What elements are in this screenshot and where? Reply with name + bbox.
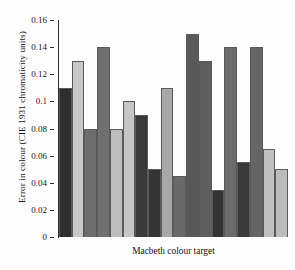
y-axis-tick-label: 0.08 <box>31 123 47 135</box>
bar <box>97 47 110 237</box>
y-axis-tick-mark <box>50 20 54 21</box>
bar <box>59 88 72 237</box>
bar <box>186 34 199 237</box>
bar <box>275 169 288 237</box>
y-axis-tick-label: 0 <box>43 231 48 243</box>
y-axis-tick-label: 0.1 <box>36 95 47 107</box>
y-axis-tick-label: 0.06 <box>31 150 47 162</box>
bar <box>84 129 97 238</box>
bar-chart-figure: Error in colour (CIE 1931 chromaticity u… <box>0 0 295 270</box>
y-axis-tick-label: 0.12 <box>31 68 47 80</box>
bar <box>250 47 263 237</box>
bar <box>212 190 225 237</box>
bar <box>161 88 174 237</box>
bar <box>72 61 85 237</box>
y-axis-tick-labels: 00.020.040.060.080.10.120.140.16 <box>20 0 54 270</box>
y-axis-tick-label: 0.14 <box>31 41 47 53</box>
y-axis-tick-mark <box>50 74 54 75</box>
y-axis-tick-mark <box>50 183 54 184</box>
y-axis-tick-mark <box>50 129 54 130</box>
y-axis-tick-mark <box>50 156 54 157</box>
x-axis-label: Macbeth colour target <box>59 246 288 256</box>
y-axis-tick-mark <box>50 47 54 48</box>
bar <box>237 162 250 237</box>
bar <box>110 129 123 238</box>
y-axis-tick-mark <box>50 210 54 211</box>
bar <box>173 176 186 237</box>
bar <box>263 149 276 237</box>
y-axis-tick-label: 0.04 <box>31 177 47 189</box>
y-axis-tick-label: 0.16 <box>31 14 47 26</box>
bar-series <box>59 20 288 237</box>
y-axis-tick-mark <box>50 101 54 102</box>
plot-area <box>59 20 288 237</box>
bar <box>123 101 136 237</box>
bar <box>224 47 237 237</box>
bar <box>135 115 148 237</box>
y-axis-tick-label: 0.02 <box>31 204 47 216</box>
bar <box>199 61 212 237</box>
y-axis-tick-mark <box>50 237 54 238</box>
bar <box>148 169 161 237</box>
